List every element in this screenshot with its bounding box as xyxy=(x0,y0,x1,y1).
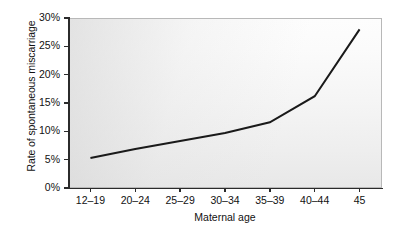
x-tick-label: 45 xyxy=(330,194,390,206)
y-tick-label: 0% xyxy=(14,181,60,193)
x-tick-mark xyxy=(224,188,225,192)
y-tick-mark xyxy=(64,102,68,103)
plot-area xyxy=(68,18,382,188)
y-tick-label: 25% xyxy=(14,39,60,51)
y-tick-mark xyxy=(64,187,68,188)
x-tick-mark xyxy=(135,188,136,192)
y-axis-line xyxy=(68,17,70,189)
chart-figure: Rate of spontaneous miscarriage 0%5%10%1… xyxy=(0,0,404,234)
y-tick-mark xyxy=(64,159,68,160)
x-axis-title: Maternal age xyxy=(68,211,382,223)
y-tick-mark xyxy=(64,46,68,47)
x-tick-mark xyxy=(90,188,91,192)
y-tick-mark xyxy=(64,74,68,75)
x-tick-mark xyxy=(359,188,360,192)
y-tick-label: 30% xyxy=(14,11,60,23)
plot-background-tint xyxy=(69,19,381,187)
x-tick-mark xyxy=(179,188,180,192)
y-tick-label: 10% xyxy=(14,124,60,136)
y-tick-label: 20% xyxy=(14,68,60,80)
y-tick-mark xyxy=(64,17,68,18)
y-tick-mark xyxy=(64,131,68,132)
y-tick-label: 15% xyxy=(14,96,60,108)
x-tick-mark xyxy=(314,188,315,192)
x-tick-mark xyxy=(269,188,270,192)
y-tick-label: 5% xyxy=(14,153,60,165)
